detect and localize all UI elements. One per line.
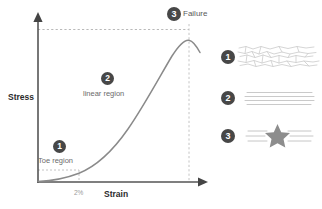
- failure-label: Failure: [183, 10, 207, 18]
- figure-canvas: Stress Strain 2% Toe region linear regio…: [0, 0, 322, 209]
- ruptured-fibers-star-icon: [246, 124, 313, 148]
- straight-parallel-fibers-icon: [245, 93, 314, 105]
- stress-strain-chart: [0, 0, 322, 209]
- rupture-star: [265, 124, 290, 148]
- linear-region-label: linear region: [83, 90, 124, 98]
- legend-badge-2: 2: [221, 91, 235, 105]
- legend-badge-1: 1: [221, 50, 235, 64]
- y-axis-label: Stress: [8, 93, 34, 102]
- chart-badge-3: 3: [167, 7, 181, 21]
- x-axis-tick-2pct: 2%: [74, 190, 83, 197]
- toe-region-label: Toe region: [38, 157, 73, 165]
- x-axis-label: Strain: [104, 190, 128, 199]
- crimped-wavy-fibers-icon: [238, 47, 319, 67]
- x-axis-arrowhead: [198, 177, 208, 186]
- chart-badge-2: 2: [101, 72, 114, 85]
- legend-badge-3: 3: [221, 129, 235, 143]
- chart-badge-1: 1: [53, 140, 66, 153]
- y-axis-arrowhead: [33, 12, 42, 22]
